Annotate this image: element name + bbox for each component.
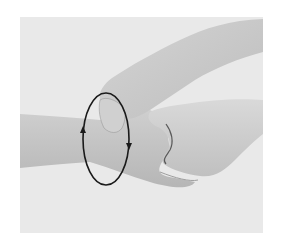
wrist-rotation-illustration — [0, 0, 283, 250]
